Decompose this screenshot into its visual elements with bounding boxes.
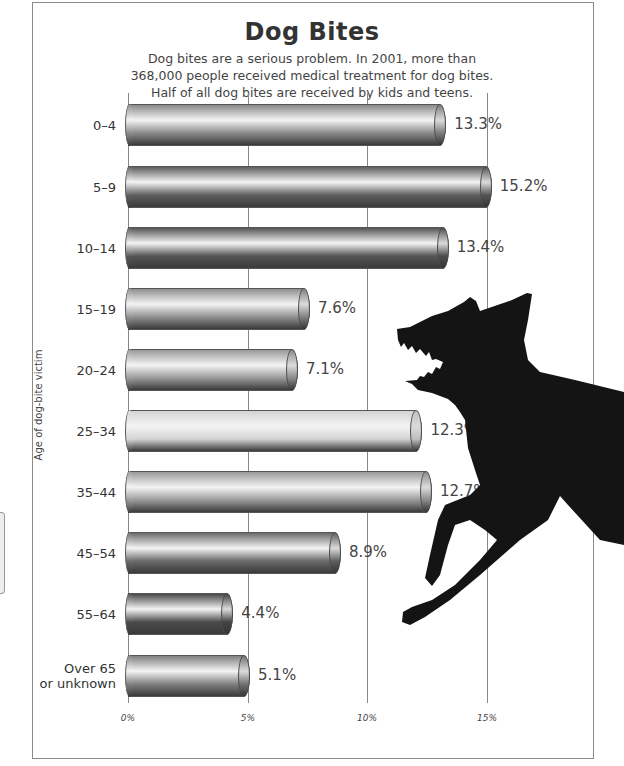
category-label-line: 25–34 (76, 424, 116, 439)
category-label-line: Over 65 (39, 661, 116, 676)
category-label-line: 0–4 (93, 118, 116, 133)
category-label: 10–14 (76, 241, 116, 256)
value-label: 7.6% (318, 299, 356, 317)
bar (128, 593, 233, 635)
category-label: 5–9 (93, 180, 116, 195)
value-label: 15.2% (500, 177, 548, 195)
value-label: 5.1% (258, 666, 296, 684)
category-label: 55–64 (76, 607, 116, 622)
chart-title: Dog Bites (0, 18, 624, 46)
chart-subtitle: Dog bites are a serious problem. In 2001… (0, 50, 624, 101)
y-axis-title: Age of dog-bite victim (33, 350, 44, 461)
value-label: 12.3% (430, 421, 478, 439)
category-label-line: or unknown (39, 676, 116, 691)
bar (128, 104, 446, 146)
x-tick-label: 15% (477, 713, 497, 723)
category-label-line: 20–24 (76, 363, 116, 378)
bar (128, 227, 449, 269)
bar (128, 532, 341, 574)
category-label-line: 5–9 (93, 180, 116, 195)
category-label-line: 35–44 (76, 485, 116, 500)
category-label: 35–44 (76, 485, 116, 500)
value-label: 13.4% (457, 238, 505, 256)
value-label: 8.9% (349, 543, 387, 561)
category-label: Over 65or unknown (39, 661, 116, 691)
bar (128, 655, 250, 697)
subtitle-line: Half of all dog bites are received by ki… (0, 84, 624, 101)
category-label: 25–34 (76, 424, 116, 439)
subtitle-line: Dog bites are a serious problem. In 2001… (0, 50, 624, 67)
value-label: 7.1% (306, 360, 344, 378)
category-label: 15–19 (76, 302, 116, 317)
category-label-line: 45–54 (76, 546, 116, 561)
x-tick-label: 10% (357, 713, 377, 723)
bar (128, 349, 298, 391)
subtitle-line: 368,000 people received medical treatmen… (0, 67, 624, 84)
bar (128, 410, 422, 452)
category-label: 20–24 (76, 363, 116, 378)
bar (128, 471, 432, 513)
bar (128, 166, 492, 208)
category-label: 0–4 (93, 118, 116, 133)
bar (128, 288, 310, 330)
category-label-line: 10–14 (76, 241, 116, 256)
page-edge-tab (0, 512, 5, 594)
value-label: 12.7% (440, 482, 488, 500)
value-label: 4.4% (241, 604, 279, 622)
category-label-line: 55–64 (76, 607, 116, 622)
value-label: 13.3% (454, 115, 502, 133)
x-tick-label: 5% (241, 713, 255, 723)
category-label: 45–54 (76, 546, 116, 561)
category-label-line: 15–19 (76, 302, 116, 317)
x-tick-label: 0% (121, 713, 135, 723)
